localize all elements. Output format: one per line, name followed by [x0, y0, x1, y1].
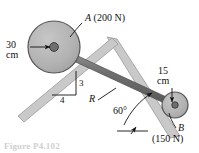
leader-line-r [98, 88, 116, 100]
label-angle-60: 60° [113, 106, 127, 116]
label-radius-b-unit: cm [157, 76, 169, 86]
label-radius-a: 30 cm [6, 40, 18, 60]
cylinder-b-body [162, 92, 188, 118]
label-cylinder-b: B [178, 123, 184, 133]
label-b-weight: (150 N) [152, 134, 183, 144]
label-radius-b: 15 cm [157, 66, 169, 86]
label-rod-r: R [89, 94, 95, 104]
label-cylinder-a: A (200 N) [85, 13, 125, 23]
figure-caption: Figure P4.102 [4, 141, 60, 151]
label-slope-rise: 3 [79, 79, 84, 88]
label-a-weight: (200 N) [94, 12, 125, 23]
figure-container: A (200 N) 30 cm 3 4 R 15 cm 60° B (150 N… [0, 0, 199, 153]
label-radius-a-unit: cm [6, 50, 18, 60]
label-slope-run: 4 [60, 96, 65, 105]
